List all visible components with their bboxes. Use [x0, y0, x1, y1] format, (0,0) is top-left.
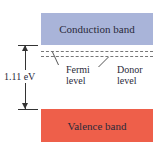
valence-band: Valence band — [41, 109, 153, 142]
band-gap-label: 1.11 eV — [4, 70, 35, 83]
conduction-band-label: Conduction band — [59, 23, 134, 35]
gap-bottom-tick — [18, 109, 38, 110]
fermi-level-line — [41, 51, 153, 52]
donor-label-line1: Donor — [117, 64, 143, 75]
conduction-band: Conduction band — [41, 13, 153, 45]
fermi-label-line2: level — [66, 75, 90, 86]
donor-label-line2: level — [117, 75, 143, 86]
arrow-down-icon — [22, 103, 28, 109]
fermi-level-label: Fermi level — [66, 64, 90, 86]
gap-top-tick — [18, 45, 38, 46]
valence-band-label: Valence band — [68, 120, 127, 132]
donor-leader-line — [98, 57, 109, 67]
arrow-up-icon — [22, 45, 28, 51]
donor-level-line — [41, 56, 153, 57]
donor-level-label: Donor level — [117, 64, 143, 86]
fermi-label-line1: Fermi — [66, 64, 90, 75]
fermi-leader-line — [52, 52, 59, 65]
